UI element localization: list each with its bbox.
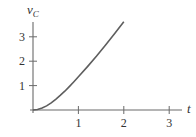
x-axis-title: t xyxy=(187,101,191,116)
y-tick-label: 3 xyxy=(19,30,25,44)
y-axis-title: vC xyxy=(27,2,40,19)
y-tick-label: 2 xyxy=(19,54,25,68)
x-tick-label: 2 xyxy=(121,116,127,130)
line-chart: 123 123 vC t xyxy=(0,0,196,137)
y-tick-label: 1 xyxy=(19,79,25,93)
vc-curve xyxy=(33,22,124,110)
x-tick-label: 3 xyxy=(166,116,172,130)
y-ticks: 123 xyxy=(19,30,37,93)
x-tick-label: 1 xyxy=(75,116,81,130)
